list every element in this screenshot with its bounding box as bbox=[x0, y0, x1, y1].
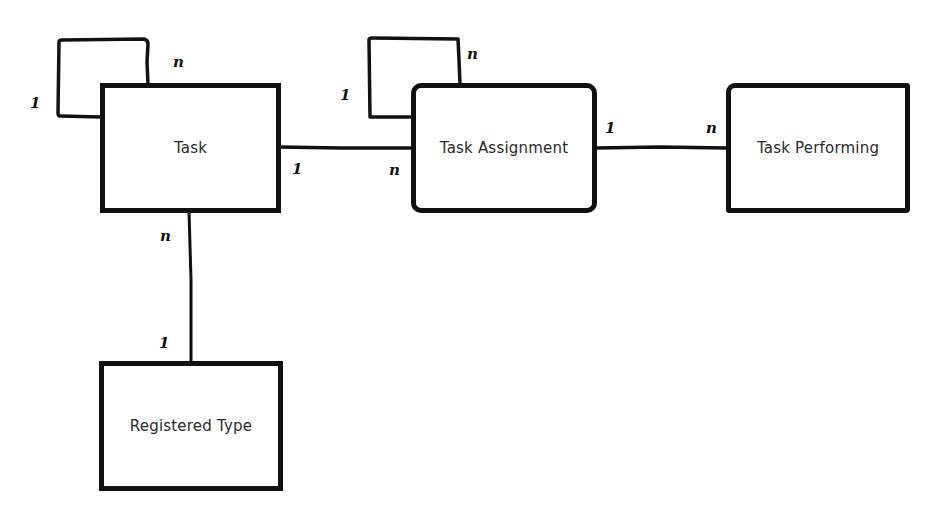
entity-task-label: Task bbox=[174, 139, 207, 157]
cardinality-task-self-many: n bbox=[173, 53, 184, 71]
cardinality-task-to-assignment-many: n bbox=[389, 161, 400, 179]
assignment-to-performing-line bbox=[596, 147, 727, 148]
entity-task[interactable]: Task bbox=[100, 83, 281, 213]
task-to-registered-type-line bbox=[189, 211, 191, 362]
cardinality-assignment-self-one: 1 bbox=[340, 86, 350, 104]
entity-registered-type[interactable]: Registered Type bbox=[99, 361, 283, 491]
cardinality-task-self-one: 1 bbox=[30, 94, 40, 112]
entity-task-assignment-label: Task Assignment bbox=[440, 139, 568, 157]
cardinality-task-to-assignment-one: 1 bbox=[292, 160, 302, 178]
task-to-assignment-line bbox=[280, 147, 412, 148]
entity-registered-type-label: Registered Type bbox=[130, 417, 252, 435]
cardinality-assignment-to-performing-one: 1 bbox=[605, 119, 615, 137]
cardinality-registered-type-to-task-one: 1 bbox=[159, 334, 169, 352]
cardinality-registered-type-to-task-many: n bbox=[160, 227, 171, 245]
entity-task-performing-label: Task Performing bbox=[757, 139, 879, 157]
cardinality-assignment-to-performing-many: n bbox=[706, 119, 717, 137]
entity-task-assignment[interactable]: Task Assignment bbox=[411, 83, 597, 213]
entity-task-performing[interactable]: Task Performing bbox=[726, 83, 910, 213]
cardinality-assignment-self-many: n bbox=[467, 45, 478, 63]
